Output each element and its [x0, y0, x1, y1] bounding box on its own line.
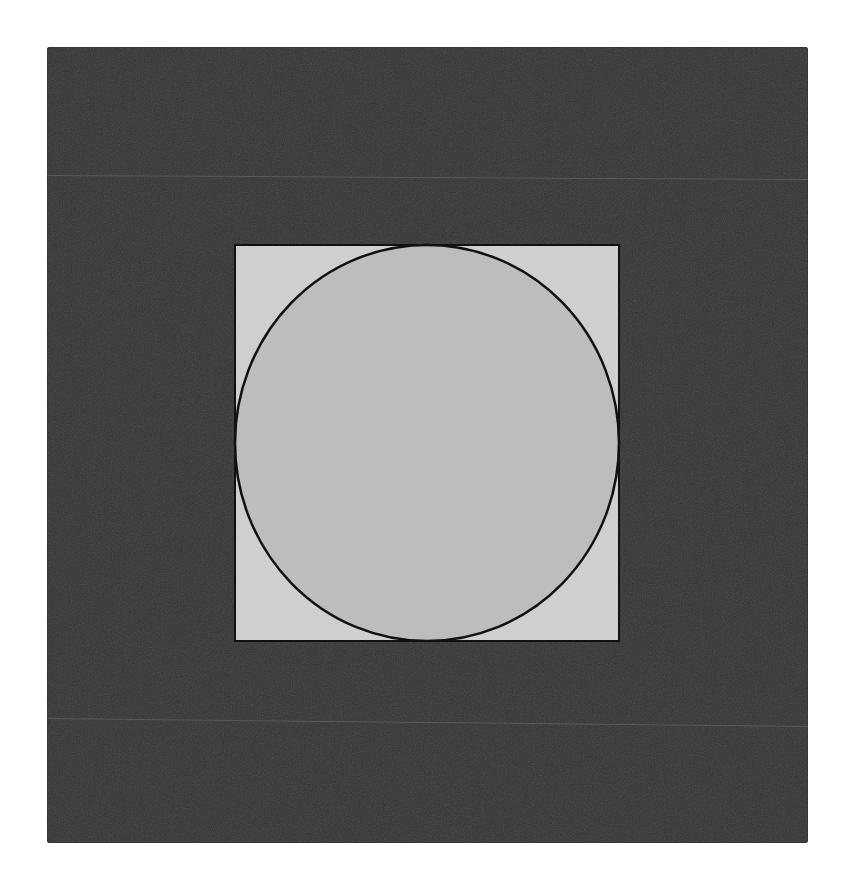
- inscribed-circle-figure: [0, 0, 852, 887]
- inscribed-circle: [235, 245, 619, 641]
